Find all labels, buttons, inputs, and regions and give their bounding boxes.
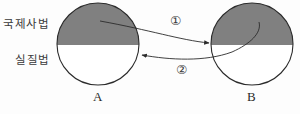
label-arrow-one: ① (170, 15, 181, 28)
circle-b-group (209, 0, 297, 93)
label-arrow-two: ② (176, 64, 187, 77)
diagram-canvas: 국제사법 실질법 A B ① ② (0, 0, 300, 114)
label-substantive-law: 실질법 (15, 55, 50, 67)
circle-a-shaded-region (55, 0, 143, 45)
circle-a-group (55, 0, 143, 93)
label-international-private-law: 국제사법 (3, 19, 49, 31)
label-circle-b: B (247, 90, 256, 103)
label-circle-a: A (93, 90, 102, 103)
